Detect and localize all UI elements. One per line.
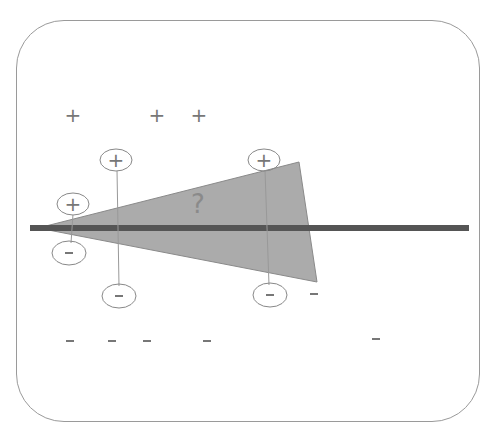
circled-minus-sample (266, 294, 274, 296)
plus-sample: + (149, 105, 166, 125)
circled-plus-sample: + (108, 150, 125, 170)
minus-sample (372, 338, 380, 340)
plus-sample: + (191, 105, 208, 125)
decision-boundary-bar (30, 225, 469, 231)
diagram-canvas (0, 0, 496, 442)
circled-plus-sample: + (65, 194, 82, 214)
minus-sample (66, 340, 74, 342)
minus-sample (203, 340, 211, 342)
minus-sample (310, 293, 318, 295)
circled-plus-sample: + (256, 150, 273, 170)
uncertainty-wedge (38, 162, 317, 282)
plus-sample: + (65, 105, 82, 125)
minus-sample (108, 340, 116, 342)
circled-minus-sample (115, 295, 123, 297)
minus-sample (143, 340, 151, 342)
question-mark-label: ? (191, 189, 205, 219)
circled-minus-sample (65, 252, 73, 254)
